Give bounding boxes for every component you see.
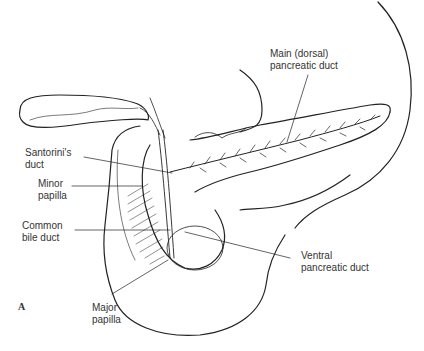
label-minor-papilla: Minor papilla	[38, 178, 67, 202]
pancreas-upper-edge	[190, 104, 390, 140]
leader-major-papilla	[112, 260, 168, 294]
liver-edge	[240, 70, 262, 132]
leader-santorini	[84, 157, 172, 173]
label-major-papilla: Major papilla	[92, 302, 121, 326]
label-ventral-pancreatic-duct: Ventral pancreatic duct	[301, 250, 369, 274]
leader-main-duct	[287, 75, 308, 142]
pancreas-illustration	[0, 0, 424, 351]
pancreatic-head	[142, 145, 224, 269]
leader-ventral-duct	[185, 232, 290, 258]
anatomy-diagram: Main (dorsal) pancreatic duct Santorini'…	[0, 0, 424, 351]
common-bile-duct	[158, 130, 170, 258]
label-common-bile-duct: Common bile duct	[22, 220, 63, 244]
label-santorinis-duct: Santorini's duct	[25, 147, 71, 171]
main-pancreatic-duct	[170, 116, 380, 172]
lower-organ-outline	[104, 126, 285, 335]
panel-letter: A	[18, 301, 25, 312]
gallbladder-outline	[19, 95, 148, 128]
label-main-dorsal-pancreatic-duct: Main (dorsal) pancreatic duct	[270, 48, 338, 72]
